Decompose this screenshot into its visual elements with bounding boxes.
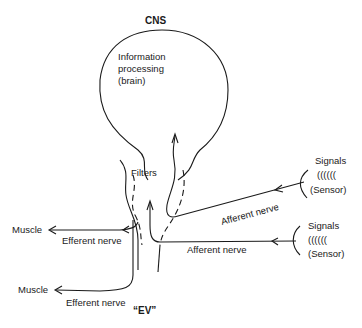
sensor-label: (Sensor) xyxy=(310,184,346,195)
neck-right-wall xyxy=(158,245,160,272)
cns-title: CNS xyxy=(145,15,166,26)
sensor-arc-upper xyxy=(300,170,308,198)
muscle-label-lower: Muscle xyxy=(18,284,48,295)
signals-label: Signals xyxy=(308,220,339,231)
afferent-nerve-label-upper: Afferent nerve xyxy=(220,201,280,227)
efferent-nerve-label-lower: Efferent nerve xyxy=(66,297,126,308)
signal-waves: (((((( xyxy=(308,234,328,245)
filters-label: Filters xyxy=(131,167,157,178)
brain-label: (brain) xyxy=(118,75,145,86)
filters-boundary-right xyxy=(160,170,184,245)
afferent-nerve-upper xyxy=(167,136,304,217)
afferent-nerve-label-lower: Afferent nerve xyxy=(187,244,247,255)
brain-label: processing xyxy=(118,63,164,74)
muscle-label-upper: Muscle xyxy=(12,224,42,235)
sensor-lower: Signals (((((( (Sensor) xyxy=(293,220,344,259)
signals-label: Signals xyxy=(315,155,346,166)
sensor-upper: Signals (((((( (Sensor) xyxy=(300,155,346,198)
efferent-nerve-lower xyxy=(56,220,133,291)
brain-label: Information xyxy=(118,51,166,62)
sensor-label: (Sensor) xyxy=(308,248,344,259)
signal-waves: (((((( xyxy=(317,169,337,180)
efferent-nerve-label-upper: Efferent nerve xyxy=(62,235,122,246)
cns-diagram: CNS Information processing (brain) Filte… xyxy=(0,0,362,328)
ev-label: “EV” xyxy=(133,305,156,316)
